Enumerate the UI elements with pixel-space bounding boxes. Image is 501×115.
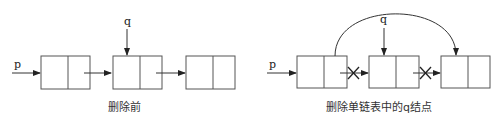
- bypass-link-arc: [335, 14, 456, 56]
- before-deletion-diagram: p q 删除前: [12, 15, 235, 114]
- linked-list-deletion-diagram: p q 删除前 p: [0, 0, 501, 115]
- node-1: [41, 56, 90, 89]
- node-3: [186, 56, 235, 89]
- node-3: [441, 56, 490, 88]
- node-2-q: [113, 56, 162, 89]
- pointer-p-label: p: [269, 58, 276, 71]
- pointer-q-label: q: [124, 15, 131, 28]
- caption-after: 删除单链表中的q结点: [326, 100, 432, 114]
- node-1: [297, 56, 347, 88]
- node-2-q-deleted: [369, 56, 419, 88]
- pointer-p-label: p: [14, 58, 21, 71]
- caption-before: 删除前: [108, 100, 141, 114]
- after-deletion-diagram: p q 删除单链表中的q结点: [267, 13, 490, 114]
- pointer-q-label: q: [380, 13, 387, 26]
